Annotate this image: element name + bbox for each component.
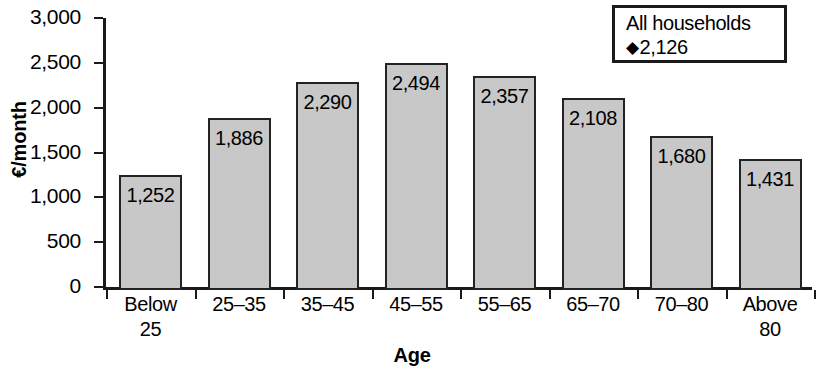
y-axis-tick: 2,500 [94,62,103,64]
x-axis-tick [549,290,551,299]
bar-chart: €/month 05001,0001,5002,0002,5003,000 1,… [0,0,824,371]
y-axis-tick: 0 [94,286,103,288]
y-axis-tick-label: 1,000 [30,184,81,208]
y-axis-tick: 3,000 [94,17,103,19]
bar: 1,252 [119,175,182,290]
y-axis-tick: 1,500 [94,152,103,154]
x-axis-category-label: 70–80 [640,292,723,317]
bar: 1,431 [739,159,802,290]
y-axis-tick: 1,000 [94,196,103,198]
x-axis-category-label: 45–55 [375,292,458,317]
x-axis-tick [460,290,462,299]
x-axis-category-label: 25–35 [198,292,281,317]
x-axis-tick [195,290,197,299]
x-axis-tick [726,290,728,299]
legend-entry-all-households: ◆ 2,126 [626,35,784,59]
bar: 1,680 [650,136,713,290]
x-axis-category-label: Above 80 [729,292,812,342]
x-axis-category-label: 55–65 [463,292,546,317]
y-axis-tick-label: 2,500 [30,49,81,73]
bar: 2,290 [296,82,359,290]
y-axis-tick: 500 [94,241,103,243]
bar: 2,108 [562,98,625,290]
bar-value-label: 1,431 [741,168,800,191]
bar-value-label: 1,886 [210,127,269,150]
y-axis-tick-label: 1,500 [30,139,81,163]
x-axis-tick [372,290,374,299]
x-axis-tick [106,290,108,299]
x-axis-category-label: Below 25 [109,292,192,342]
x-axis-tick [283,290,285,299]
bar: 1,886 [208,118,271,290]
x-axis-tick [814,290,816,299]
bar-value-label: 2,494 [387,72,446,95]
x-axis-category-label: 65–70 [552,292,635,317]
x-axis-category-label: 35–45 [286,292,369,317]
x-axis-tick [637,290,639,299]
legend-entry-value: 2,126 [640,35,688,59]
y-axis-tick-label: 0 [70,274,81,298]
diamond-marker-icon: ◆ [626,39,639,56]
y-axis-tick-label: 3,000 [30,5,81,29]
bar-value-label: 2,290 [298,91,357,114]
y-axis-tick-label: 2,000 [30,94,81,118]
y-axis-line [103,18,106,287]
y-axis-tick: 2,000 [94,107,103,109]
bar-value-label: 2,357 [475,85,534,108]
bar: 2,494 [385,63,448,290]
bar-value-label: 1,680 [652,145,711,168]
bar: 2,357 [473,76,536,290]
x-axis-title: Age [0,344,824,367]
legend-title: All households [626,11,784,35]
legend: All households ◆ 2,126 [612,5,787,63]
y-axis-tick-label: 500 [47,229,81,253]
bar-value-label: 2,108 [564,107,623,130]
y-axis-title: €/month [8,90,31,190]
bar-value-label: 1,252 [121,184,180,207]
